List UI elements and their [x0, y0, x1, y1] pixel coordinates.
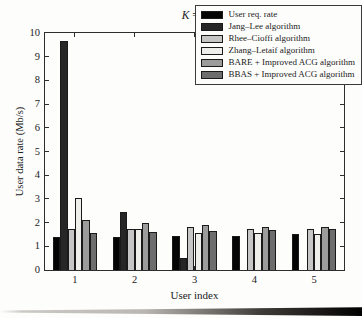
- page-shadow-artifact: [0, 307, 362, 316]
- legend-swatch: [201, 35, 223, 43]
- bar-bbas-improved-acg-algorithm-user-4: [269, 230, 276, 270]
- y-tick-label: 10: [8, 27, 40, 39]
- y-tick-label: 8: [8, 74, 40, 86]
- x-tick-label: 3: [180, 274, 210, 285]
- bar-rhee-cioffi-algorithm-user-3: [187, 227, 194, 270]
- legend-label: Jang–Lee algorithm: [228, 22, 300, 32]
- y-tick-label: 1: [8, 240, 40, 252]
- y-tick-left: [45, 56, 49, 57]
- bar-zhang-letaif-algorithm-user-2: [135, 229, 142, 270]
- bar-bbas-improved-acg-algorithm-user-1: [90, 233, 97, 270]
- legend-item-zhang-letaif-algorithm: Zhang–Letaif algorithm: [201, 46, 355, 56]
- bar-bare-improved-acg-algorithm-user-4: [262, 227, 269, 270]
- x-tick-label: 2: [120, 274, 150, 285]
- y-tick-label: 9: [8, 51, 40, 63]
- figure: K = 5 User data rate (Mb/s) User index U…: [0, 0, 362, 318]
- x-axis-label: User index: [44, 289, 345, 301]
- y-tick-left: [45, 246, 49, 247]
- legend-swatch: [201, 11, 223, 19]
- bar-bare-improved-acg-algorithm-user-2: [142, 223, 149, 270]
- bar-zhang-letaif-algorithm-user-1: [75, 198, 82, 270]
- x-tick-label: 4: [239, 274, 269, 285]
- y-tick-right: [340, 246, 344, 247]
- y-tick-label: 3: [8, 193, 40, 205]
- x-tick-top: [134, 33, 135, 37]
- legend-item-bare-improved-acg-algorithm: BARE + Improved ACG algorithm: [201, 58, 355, 68]
- legend-swatch: [201, 47, 223, 55]
- y-tick-right: [340, 198, 344, 199]
- y-tick-left: [45, 80, 49, 81]
- legend: User req. rateJang–Lee algorithmRhee–Cio…: [195, 5, 362, 85]
- legend-item-jang-lee-algorithm: Jang–Lee algorithm: [201, 22, 355, 32]
- y-tick-label: 5: [8, 146, 40, 158]
- bar-zhang-letaif-algorithm-user-3: [195, 233, 202, 270]
- x-tick-label: 5: [299, 274, 329, 285]
- legend-swatch: [201, 59, 223, 67]
- bar-bbas-improved-acg-algorithm-user-2: [149, 232, 156, 270]
- y-tick-right: [340, 151, 344, 152]
- legend-swatch: [201, 71, 223, 79]
- bar-jang-lee-algorithm-user-1: [60, 41, 67, 270]
- y-tick-label: 2: [8, 217, 40, 229]
- y-tick-right: [340, 222, 344, 223]
- legend-label: User req. rate: [228, 10, 277, 20]
- bar-user-req-rate-user-2: [113, 237, 120, 270]
- legend-item-rhee-cioffi-algorithm: Rhee–Cioffi algorithm: [201, 34, 355, 44]
- legend-label: BBAS + Improved ACG algorithm: [228, 70, 354, 80]
- bar-bbas-improved-acg-algorithm-user-3: [209, 231, 216, 270]
- bar-jang-lee-algorithm-user-3: [180, 258, 187, 270]
- y-tick-left: [45, 175, 49, 176]
- x-tick-top: [74, 33, 75, 37]
- legend-item-bbas-improved-acg-algorithm: BBAS + Improved ACG algorithm: [201, 70, 355, 80]
- bar-zhang-letaif-algorithm-user-4: [254, 233, 261, 270]
- x-tick-label: 1: [60, 274, 90, 285]
- y-tick-label: 0: [8, 264, 40, 276]
- bar-zhang-letaif-algorithm-user-5: [314, 234, 321, 270]
- legend-swatch: [201, 23, 223, 31]
- bar-user-req-rate-user-4: [232, 236, 239, 270]
- y-tick-right: [340, 104, 344, 105]
- y-tick-label: 6: [8, 122, 40, 134]
- y-tick-label: 7: [8, 98, 40, 110]
- bar-bare-improved-acg-algorithm-user-3: [202, 225, 209, 270]
- legend-label: Zhang–Letaif algorithm: [228, 46, 314, 56]
- bar-user-req-rate-user-3: [172, 236, 179, 270]
- bar-user-req-rate-user-1: [53, 237, 60, 270]
- bar-bare-improved-acg-algorithm-user-5: [321, 227, 328, 270]
- y-tick-label: 4: [8, 169, 40, 181]
- bar-rhee-cioffi-algorithm-user-5: [307, 229, 314, 270]
- y-tick-right: [340, 127, 344, 128]
- legend-label: BARE + Improved ACG algorithm: [228, 58, 355, 68]
- y-tick-left: [45, 198, 49, 199]
- bar-jang-lee-algorithm-user-2: [120, 212, 127, 270]
- bar-rhee-cioffi-algorithm-user-1: [68, 229, 75, 270]
- legend-label: Rhee–Cioffi algorithm: [228, 34, 310, 44]
- bar-user-req-rate-user-5: [292, 234, 299, 270]
- y-tick-left: [45, 104, 49, 105]
- y-tick-right: [340, 175, 344, 176]
- bar-bare-improved-acg-algorithm-user-1: [82, 220, 89, 270]
- legend-item-user-req-rate: User req. rate: [201, 10, 355, 20]
- bar-rhee-cioffi-algorithm-user-4: [247, 229, 254, 270]
- bar-rhee-cioffi-algorithm-user-2: [127, 229, 134, 270]
- y-tick-left: [45, 222, 49, 223]
- bar-bbas-improved-acg-algorithm-user-5: [329, 229, 336, 270]
- y-tick-left: [45, 151, 49, 152]
- y-tick-left: [45, 127, 49, 128]
